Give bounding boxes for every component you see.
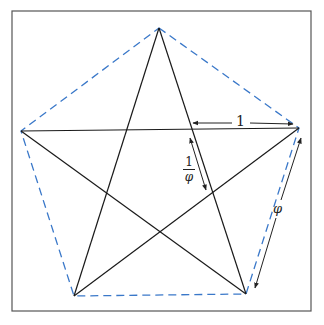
pentagram-star: [21, 28, 299, 296]
pentagram-diagram: [0, 0, 324, 325]
dimension-arrow-phi-b: [255, 218, 276, 288]
dimension-arrow-phi-a: [281, 138, 301, 200]
label-inv-phi-den: φ: [185, 170, 193, 184]
dimension-arrow-1b: [250, 123, 293, 124]
label-inv-phi: 1 φ: [183, 156, 195, 183]
label-side-1: 1: [236, 114, 245, 128]
label-side-phi: φ: [273, 202, 282, 215]
frame: [12, 11, 311, 311]
label-inv-phi-num: 1: [185, 155, 193, 169]
pentagon-dashed: [21, 28, 299, 296]
